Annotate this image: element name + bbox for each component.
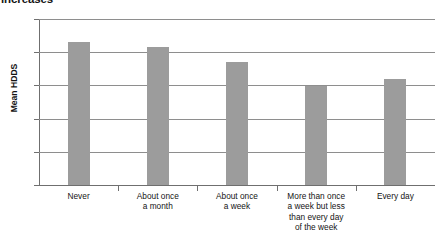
bar bbox=[384, 79, 406, 185]
chart-title: increases bbox=[1, 0, 53, 5]
bar bbox=[147, 47, 169, 185]
x-axis-label: About oncea week bbox=[197, 191, 276, 212]
x-label-line: a month bbox=[143, 201, 173, 211]
x-label-line: a week but less bbox=[288, 201, 345, 211]
x-label-line: About once bbox=[137, 191, 179, 201]
x-label-line: Never bbox=[68, 191, 90, 201]
bar bbox=[68, 42, 90, 185]
x-label-line: of the week bbox=[295, 222, 337, 231]
plot-area bbox=[39, 19, 435, 185]
x-axis-label: About oncea month bbox=[118, 191, 197, 212]
x-axis-label: Every day bbox=[356, 191, 435, 201]
x-axis-label: Never bbox=[39, 191, 118, 201]
gridline bbox=[39, 52, 435, 53]
x-label-line: About once bbox=[216, 191, 258, 201]
bar bbox=[305, 86, 327, 185]
gridline bbox=[39, 185, 435, 186]
bar-chart: increases Mean HDDS 012345 NeverAbout on… bbox=[0, 0, 435, 231]
y-axis-title: Mean HDDS bbox=[9, 53, 19, 123]
x-label-line: than every day bbox=[289, 212, 343, 222]
gridline bbox=[39, 19, 435, 20]
x-label-line: a week bbox=[224, 201, 250, 211]
bar bbox=[226, 62, 248, 185]
x-label-line: Every day bbox=[377, 191, 414, 201]
x-axis-label: More than oncea week but lessthan every … bbox=[277, 191, 356, 231]
x-label-line: More than once bbox=[287, 191, 345, 201]
